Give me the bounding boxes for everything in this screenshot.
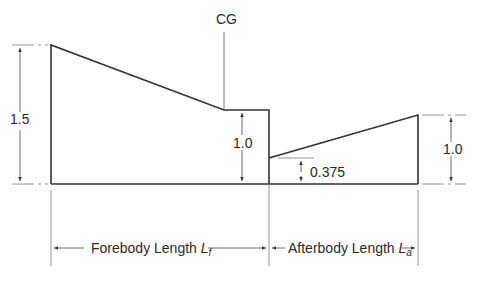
body-outline [51,45,418,184]
afterbody-height-label: 1.0 [443,142,462,156]
forebody-length-text: Forebody Length [91,240,201,256]
forebody-length-subscript: f [209,247,212,258]
afterbody-length-text: Afterbody Length [288,240,399,256]
cg-label: CG [216,12,237,26]
afterbody-length-label: Afterbody Length La [288,241,412,258]
afterbody-length-subscript: a [406,247,412,258]
afterbody-start-height-label: 0.375 [310,165,345,179]
forebody-height-label: 1.5 [10,112,29,126]
forebody-length-label: Forebody Length Lf [91,241,211,258]
forebody-length-symbol: L [201,240,209,256]
step-height-label: 1.0 [233,136,252,150]
